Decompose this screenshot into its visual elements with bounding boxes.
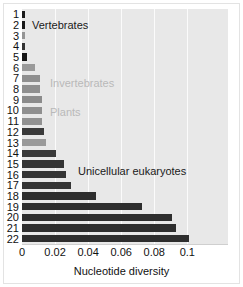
bar-row: 5: [22, 53, 228, 60]
bar-4: [22, 43, 25, 50]
bar-14: [22, 150, 56, 157]
x-axis-title: Nucleotide diversity: [0, 266, 243, 277]
bar-9: [22, 96, 42, 103]
bar-row: 17: [22, 182, 228, 189]
bar-5: [22, 53, 27, 60]
bar-2: [22, 21, 25, 28]
bar-17: [22, 182, 71, 189]
x-axis-line: [22, 244, 228, 245]
bar-13: [22, 139, 46, 146]
bar-22: [22, 235, 189, 242]
bar-15: [22, 160, 64, 167]
bar-row: 19: [22, 203, 228, 210]
x-tick-label-0.02: 0.02: [44, 247, 65, 258]
bar-row: 11: [22, 118, 228, 125]
bar-16: [22, 171, 66, 178]
bar-row: 4: [22, 43, 228, 50]
bar-row: 3: [22, 32, 228, 39]
bar-18: [22, 192, 96, 199]
bar-row: 21: [22, 224, 228, 231]
bar-21: [22, 224, 176, 231]
bar-row: 6: [22, 64, 228, 71]
annotation-plants: Plants: [50, 107, 81, 118]
annotation-unicellular-eukaryotes: Unicellular eukaryotes: [78, 166, 186, 177]
x-tick-label-0.1: 0.1: [180, 247, 195, 258]
bar-19: [22, 203, 142, 210]
bar-row: 12: [22, 128, 228, 135]
bar-row: 1: [22, 11, 228, 18]
bar-6: [22, 64, 35, 71]
bar-10: [22, 107, 42, 114]
bar-row: 22: [22, 235, 228, 242]
chart-figure: 00.020.040.060.080.1 1234567891011121314…: [0, 0, 243, 287]
annotation-vertebrates: Vertebrates: [32, 20, 88, 31]
bar-row: 9: [22, 96, 228, 103]
bar-row: 14: [22, 150, 228, 157]
bar-11: [22, 118, 42, 125]
bar-12: [22, 128, 44, 135]
x-tick-label-0: 0: [19, 247, 25, 258]
x-tick-label-0.06: 0.06: [110, 247, 131, 258]
bar-7: [22, 75, 40, 82]
x-tick-label-0.08: 0.08: [144, 247, 165, 258]
bar-20: [22, 214, 172, 221]
x-tick-label-0.04: 0.04: [77, 247, 98, 258]
bar-1: [22, 11, 25, 18]
bar-row: 18: [22, 192, 228, 199]
bar-8: [22, 85, 40, 92]
bar-row: 13: [22, 139, 228, 146]
annotation-invertebrates: Invertebrates: [50, 78, 114, 89]
bar-row: 20: [22, 214, 228, 221]
bar-3: [22, 32, 25, 39]
y-tick-label-22: 22: [7, 233, 19, 244]
